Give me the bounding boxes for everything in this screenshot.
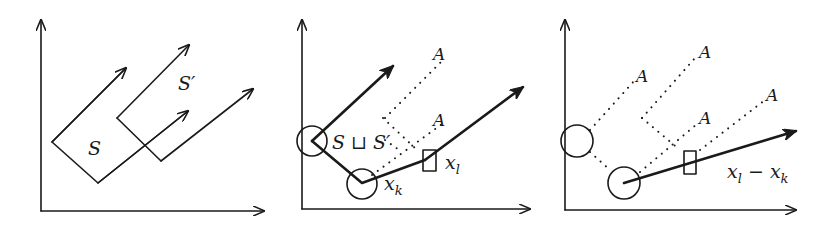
- panel-1: S S′: [41, 20, 264, 211]
- label-a: A: [697, 108, 711, 128]
- label-union: S ⊔ S′: [332, 131, 391, 153]
- label-a: A: [431, 110, 445, 130]
- label-a: A: [764, 85, 778, 105]
- label-x-k: xk: [384, 172, 403, 198]
- set-s-prime-shape: [117, 45, 253, 161]
- figure: S S′ S ⊔ S′ xk xl A A: [0, 0, 828, 235]
- label-s: S: [88, 137, 101, 159]
- label-a: A: [697, 42, 711, 62]
- label-difference: xl − xk: [727, 160, 789, 186]
- label-s-prime: S′: [178, 72, 196, 94]
- label-x-l: xl: [445, 151, 460, 177]
- panel-2: S ⊔ S′ xk xl A A: [297, 20, 530, 209]
- label-a: A: [431, 44, 445, 64]
- dotted-ray: [385, 58, 445, 118]
- panel-3: A A A A xl − xk: [561, 20, 796, 210]
- set-s-shape: [52, 68, 188, 183]
- label-a: A: [634, 66, 648, 86]
